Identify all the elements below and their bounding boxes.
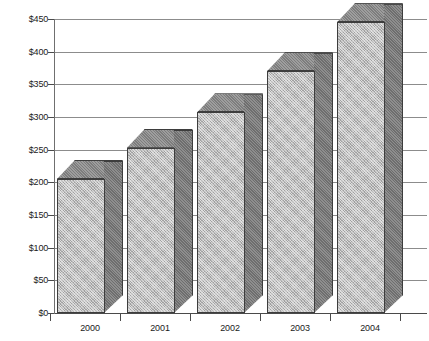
x-tick-label-2000: 2000 — [65, 323, 115, 333]
bar-2002 — [197, 94, 263, 313]
y-tick-label: $100 — [4, 244, 48, 253]
x-tick-label-2001: 2001 — [135, 323, 185, 333]
y-axis: $0$50$100$150$200$250$300$350$400$450 — [0, 0, 48, 341]
y-axis-line — [54, 19, 55, 314]
y-tick-label: $150 — [4, 211, 48, 220]
y-tick-label: $400 — [4, 48, 48, 57]
y-tick-label: $250 — [4, 146, 48, 155]
x-tick-label-2003: 2003 — [275, 323, 325, 333]
bar-side-face — [314, 53, 333, 313]
x-tick-mark — [190, 314, 191, 321]
bar-front-face — [57, 179, 105, 313]
y-tick-label: $300 — [4, 113, 48, 122]
x-tick-mark — [330, 314, 331, 321]
bar-chart: $0$50$100$150$200$250$300$350$400$450 20… — [0, 0, 429, 341]
bar-side-face — [104, 161, 123, 313]
y-tick-label: $450 — [4, 15, 48, 24]
bar-front-face — [337, 22, 385, 313]
x-tick-mark — [260, 314, 261, 321]
bar-side-face — [174, 130, 193, 313]
bar-front-face — [267, 71, 315, 313]
bar-front-face — [197, 112, 245, 313]
bar-2004 — [337, 4, 403, 313]
y-tick-label: $350 — [4, 80, 48, 89]
bar-2001 — [127, 130, 193, 313]
x-tick-label-2004: 2004 — [345, 323, 395, 333]
bar-2003 — [267, 53, 333, 313]
x-tick-mark — [50, 314, 51, 321]
x-tick-mark — [400, 314, 401, 321]
y-tick-label: $200 — [4, 178, 48, 187]
bar-side-face — [384, 4, 403, 313]
bar-front-face — [127, 148, 175, 313]
gridline-usd-0 — [52, 313, 427, 314]
y-tick-label: $0 — [4, 309, 48, 318]
bar-2000 — [57, 161, 123, 313]
x-tick-label-2002: 2002 — [205, 323, 255, 333]
x-tick-mark — [120, 314, 121, 321]
bar-side-face — [244, 94, 263, 313]
y-tick-label: $50 — [4, 276, 48, 285]
